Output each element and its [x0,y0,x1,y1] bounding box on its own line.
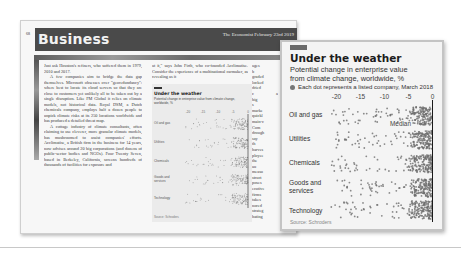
svg-text:-20: -20 [186,110,191,114]
category-label: Technology [289,207,322,215]
category-label: Oil and gas [289,111,322,119]
zero-reference-line [432,100,433,222]
category-label: Goods and services [289,179,325,195]
page-number: 68 [26,31,30,36]
paragraph: ages b graded locked dried c a big s mar… [252,63,278,220]
chart-subtitle: Potential change in enterprise value fro… [290,65,408,83]
paragraph: A cottage industry of climate consultant… [44,124,142,168]
x-tick-label: 0 [431,93,435,100]
median-annotation: Median [390,120,411,127]
chart-legend: Each dot represents a listed company, Ma… [290,84,433,90]
svg-text:-15: -15 [201,110,206,114]
paragraph: Just ask Houston's refiners, who suffere… [44,63,142,74]
x-tick-label: -20 [332,93,341,100]
svg-text:0: 0 [247,110,249,114]
chart-title: Under the weather [290,52,401,64]
x-axis-ticks: -20-15-10-50 [282,93,442,103]
chart-source: Source: Schroders [290,219,331,225]
section-title: Business [38,31,110,47]
category-label: Chemicals [289,159,320,167]
section-header: Business The Economist February 23rd 201… [35,28,297,51]
legend-label: Each dot represents a listed company, Ma… [298,84,433,90]
category-label: Utilities [289,135,310,143]
masthead: The Economist February 23rd 2019 [223,32,294,37]
plot-area: Oil and gas Utilities Chemicals Goods an… [282,104,442,224]
paragraph: at it," says John Firth, who co-founded … [152,63,248,80]
x-tick-label: -5 [406,93,412,100]
article-column-3: ages b graded locked dried c a big s mar… [252,63,278,221]
x-tick-label: -15 [356,93,365,100]
photo-edge [34,60,39,160]
photo-strip [34,55,296,60]
chart-callout: Under the weather Potential change in en… [280,40,444,231]
page-chart-dots: -20-15-10-50 [152,84,252,222]
page-chart: Under the weather Potential change in en… [152,84,252,222]
svg-text:-5: -5 [232,110,235,114]
dot-icon [290,85,295,90]
article-column-2: at it," says John Firth, who co-founded … [152,63,248,81]
subtitle-line: Potential change in enterprise value [290,65,408,74]
paragraph: A few companies aim to bridge the data g… [44,74,142,124]
divider [0,247,461,248]
subtitle-line: from climate change, worldwide, % [290,74,408,83]
svg-text:-10: -10 [216,110,221,114]
chart-tag [290,45,307,50]
x-tick-label: -10 [380,93,389,100]
article-column-1: Just ask Houston's refiners, who suffere… [44,63,142,223]
